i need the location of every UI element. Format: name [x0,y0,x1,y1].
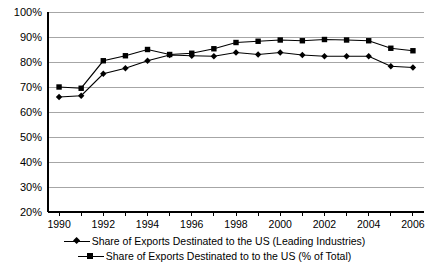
x-axis-tick-label: 1990 [47,218,71,230]
data-point-square [388,46,393,51]
data-point-diamond [144,58,150,64]
y-axis-tick-label: 100% [14,6,42,18]
y-axis-tick-label: 40% [20,156,42,168]
series-line-percent-of-total [59,40,413,89]
legend-item-percent-of-total: Share of Exports Destinated to to the US… [78,249,352,264]
data-point-diamond [233,49,239,55]
line-chart: 20%30%40%50%60%70%80%90%100%199019921994… [0,0,429,277]
y-axis-tick-label: 30% [20,181,42,193]
x-axis-tick-label: 1996 [180,218,204,230]
data-point-square [366,38,371,43]
data-point-square [211,46,216,51]
data-point-square [255,39,260,44]
data-point-square [300,38,305,43]
chart-legend: Share of Exports Destinated to the US (L… [0,232,429,277]
legend-label-leading-industries: Share of Exports Destinated to the US (L… [90,235,366,248]
data-point-diamond [410,64,416,70]
data-point-square [78,86,83,91]
x-axis-tick-label: 1998 [224,218,248,230]
data-point-diamond [211,53,217,59]
data-point-diamond [122,65,128,71]
data-point-square [233,40,238,45]
plot-area: 20%30%40%50%60%70%80%90%100%199019921994… [0,0,429,232]
data-point-square [344,37,349,42]
data-point-square [123,53,128,58]
data-point-diamond [255,51,261,57]
legend-item-leading-industries: Share of Exports Destinated to the US (L… [64,234,366,249]
legend-marker-square-icon [78,250,104,264]
x-axis-tick-label: 1994 [136,218,160,230]
data-point-diamond [299,52,305,58]
x-axis-tick-label: 2004 [357,218,381,230]
x-axis-tick-label: 2006 [401,218,425,230]
x-axis-tick-label: 1992 [92,218,116,230]
y-axis-tick-label: 90% [20,31,42,43]
data-point-square [101,58,106,63]
chart-canvas: 20%30%40%50%60%70%80%90%100%199019921994… [0,0,429,232]
y-axis-tick-label: 60% [20,106,42,118]
legend-marker-diamond-icon [64,235,90,249]
data-point-square [278,37,283,42]
y-axis-tick-label: 50% [20,131,42,143]
data-point-diamond [277,49,283,55]
x-axis-tick-label: 2000 [269,218,293,230]
data-point-square [322,37,327,42]
data-point-square [410,48,415,53]
data-point-diamond [343,53,349,59]
data-point-square [189,51,194,56]
y-axis-tick-label: 80% [20,56,42,68]
data-point-square [145,47,150,52]
y-axis-tick-label: 70% [20,81,42,93]
data-point-square [167,52,172,57]
data-point-diamond [388,63,394,69]
legend-label-percent-of-total: Share of Exports Destinated to to the US… [104,250,352,263]
data-point-diamond [321,53,327,59]
data-point-diamond [56,94,62,100]
data-point-square [56,84,61,89]
x-axis-tick-label: 2002 [313,218,337,230]
y-axis-tick-label: 20% [20,206,42,218]
data-point-diamond [366,53,372,59]
